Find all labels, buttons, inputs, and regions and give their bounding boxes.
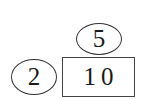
ellipse-node-left-label: 2 — [28, 63, 41, 91]
ellipse-node-top-label: 5 — [93, 25, 106, 53]
diagram-canvas: 5 2 10 — [0, 0, 142, 99]
rectangle-node-label: 10 — [79, 63, 119, 91]
rectangle-node: 10 — [62, 57, 135, 97]
ellipse-node-left: 2 — [11, 59, 57, 95]
ellipse-node-top: 5 — [76, 23, 122, 55]
